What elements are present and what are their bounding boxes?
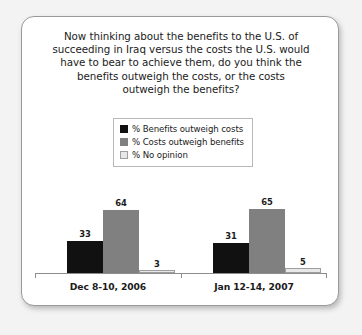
- bar-value-no-opinion-dec-2006: 3: [154, 259, 160, 269]
- chart-title-line-1: Now thinking about the benefits to the U…: [35, 30, 327, 43]
- x-axis-tick-left: [35, 273, 36, 278]
- x-axis-tick-center: [181, 273, 182, 278]
- bar-value-costs-dec-2006: 64: [115, 198, 127, 208]
- bar-benefits-jan-2007: 31: [213, 243, 249, 273]
- bar-costs-jan-2007: 65: [249, 209, 285, 273]
- bar-benefits-dec-2006: 33: [67, 241, 103, 273]
- legend-label-costs: % Costs outweigh benefits: [132, 137, 244, 147]
- legend-item-costs: % Costs outweigh benefits: [120, 136, 246, 148]
- bar-value-costs-jan-2007: 65: [261, 197, 273, 207]
- legend-swatch-costs: [120, 138, 128, 146]
- legend-item-no-opinion: % No opinion: [120, 149, 246, 161]
- chart-legend: % Benefits outweigh costs % Costs outwei…: [113, 118, 253, 167]
- chart-card: Now thinking about the benefits to the U…: [21, 16, 339, 306]
- chart-title-line-4: benefits outweigh the costs, or the cost…: [35, 70, 327, 83]
- chart-title-line-2: succeeding in Iraq versus the costs the …: [35, 43, 327, 56]
- legend-label-benefits: % Benefits outweigh costs: [132, 124, 243, 134]
- plot-area: 33 64 3 31 65 5: [35, 175, 327, 273]
- x-axis-tick-right: [326, 273, 327, 278]
- legend-label-no-opinion: % No opinion: [132, 150, 188, 160]
- bar-costs-dec-2006: 64: [103, 210, 139, 273]
- chart-title-line-3: have to bear to achieve them, do you thi…: [35, 56, 327, 69]
- legend-swatch-benefits: [120, 125, 128, 133]
- category-label-jan-2007: Jan 12-14, 2007: [181, 281, 327, 292]
- bar-value-benefits-dec-2006: 33: [79, 229, 91, 239]
- bar-value-no-opinion-jan-2007: 5: [300, 257, 306, 267]
- category-label-dec-2006: Dec 8-10, 2006: [35, 281, 181, 292]
- chart-title: Now thinking about the benefits to the U…: [35, 30, 327, 96]
- plot: 33 64 3 31 65 5: [35, 175, 327, 293]
- legend-item-benefits: % Benefits outweigh costs: [120, 123, 246, 135]
- chart-title-line-5: outweigh the benefits?: [35, 83, 327, 96]
- legend-swatch-no-opinion: [120, 151, 128, 159]
- bar-value-benefits-jan-2007: 31: [225, 231, 237, 241]
